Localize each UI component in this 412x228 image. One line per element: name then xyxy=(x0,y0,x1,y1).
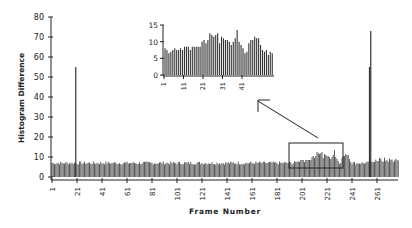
svg-text:50: 50 xyxy=(34,73,44,82)
svg-text:5: 5 xyxy=(153,54,158,63)
svg-text:141: 141 xyxy=(224,187,232,200)
svg-text:70: 70 xyxy=(34,33,44,42)
inset-bars xyxy=(165,30,272,75)
svg-text:40: 40 xyxy=(34,93,44,102)
arrow-line xyxy=(258,101,318,138)
svg-text:161: 161 xyxy=(249,187,257,200)
svg-text:101: 101 xyxy=(174,187,182,200)
svg-text:21: 21 xyxy=(74,187,82,196)
svg-text:80: 80 xyxy=(34,13,44,22)
svg-text:181: 181 xyxy=(274,187,282,200)
svg-text:15: 15 xyxy=(148,21,158,30)
svg-text:1: 1 xyxy=(49,187,57,191)
svg-text:81: 81 xyxy=(149,187,157,196)
svg-text:10: 10 xyxy=(148,38,158,47)
svg-text:60: 60 xyxy=(34,53,44,62)
svg-text:10: 10 xyxy=(34,153,44,162)
svg-text:1: 1 xyxy=(160,82,168,86)
svg-text:41: 41 xyxy=(238,82,246,90)
svg-text:30: 30 xyxy=(34,113,44,122)
svg-text:221: 221 xyxy=(324,187,332,200)
svg-text:11: 11 xyxy=(180,82,188,90)
y-axis-label: Histogram Difference xyxy=(17,53,26,143)
svg-text:201: 201 xyxy=(299,187,307,200)
histogram-difference-chart: 0102030405060708012141618110112114116118… xyxy=(0,0,412,228)
svg-text:0: 0 xyxy=(153,71,158,80)
svg-text:241: 241 xyxy=(349,187,357,200)
svg-text:61: 61 xyxy=(124,187,132,196)
svg-text:41: 41 xyxy=(99,187,107,196)
svg-text:21: 21 xyxy=(199,82,207,90)
svg-text:121: 121 xyxy=(199,187,207,200)
svg-text:31: 31 xyxy=(219,82,227,90)
svg-text:261: 261 xyxy=(374,187,382,200)
svg-text:20: 20 xyxy=(34,133,44,142)
svg-text:0: 0 xyxy=(39,173,44,182)
x-axis-label: Frame Number xyxy=(189,207,261,216)
